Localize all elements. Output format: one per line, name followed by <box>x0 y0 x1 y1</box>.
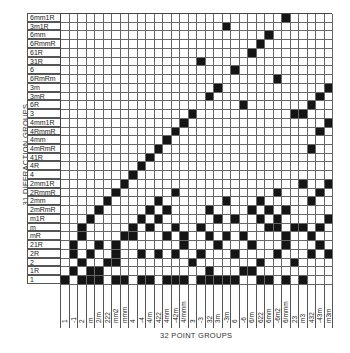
grid-cell <box>138 58 147 67</box>
grid-cell <box>282 145 291 154</box>
grid-cell <box>274 93 283 102</box>
grid-cell <box>129 119 138 128</box>
grid-cell <box>325 58 334 67</box>
grid-cell <box>146 241 155 250</box>
grid-cell <box>325 136 334 145</box>
grid-cell <box>87 162 96 171</box>
grid-cell <box>299 93 308 102</box>
grid-cell <box>325 259 334 268</box>
grid-cell <box>129 101 138 110</box>
grid-cell <box>316 224 325 233</box>
row-label: 3m <box>27 83 60 92</box>
column-label-text: 4/m <box>146 312 153 323</box>
grid-cell <box>325 93 334 102</box>
grid-cell <box>231 75 240 84</box>
grid-cell <box>172 101 181 110</box>
row-label: 6RmRm <box>27 74 60 83</box>
column-label: -4 <box>138 284 147 328</box>
grid-cell <box>87 84 96 93</box>
grid-cell <box>316 241 325 250</box>
grid-cell <box>308 58 317 67</box>
grid-cell <box>78 171 87 180</box>
column-label-text: 4mm <box>163 309 170 323</box>
grid-cell <box>172 145 181 154</box>
grid-cell <box>214 40 223 49</box>
grid-cell <box>308 154 317 163</box>
grid-cell <box>299 171 308 180</box>
grid-cell <box>70 180 79 189</box>
grid-cell <box>291 101 300 110</box>
grid-cell <box>129 215 138 224</box>
grid-cell <box>291 180 300 189</box>
grid-cell <box>78 49 87 58</box>
grid-cell <box>70 93 79 102</box>
grid-cell <box>163 23 172 32</box>
grid-cell <box>214 75 223 84</box>
grid-cell <box>146 110 155 119</box>
grid-cell <box>240 197 249 206</box>
grid-cell <box>214 66 223 75</box>
grid-cell <box>308 31 317 40</box>
row-label: 1R <box>27 266 60 275</box>
grid-cell <box>265 162 274 171</box>
grid-cell <box>112 267 121 276</box>
grid-cell <box>121 110 130 119</box>
grid-cell <box>316 84 325 93</box>
grid-cell <box>240 40 249 49</box>
grid-cell <box>61 224 70 233</box>
grid-cell <box>70 58 79 67</box>
grid-cell <box>138 49 147 58</box>
grid-cell <box>257 66 266 75</box>
grid-cell <box>104 215 113 224</box>
row-label: 4 <box>27 170 60 179</box>
row-label: 2RmmR <box>27 188 60 197</box>
column-label: 3 <box>189 284 198 328</box>
grid-cell <box>172 31 181 40</box>
grid-cell <box>146 75 155 84</box>
grid-cell <box>112 119 121 128</box>
grid-cell <box>214 171 223 180</box>
grid-cell <box>308 66 317 75</box>
grid-cell <box>257 110 266 119</box>
grid-cell <box>138 267 147 276</box>
row-label: 3m1R <box>27 22 60 31</box>
grid-cell <box>299 241 308 250</box>
grid-cell <box>146 84 155 93</box>
grid-cell <box>163 49 172 58</box>
grid-cell <box>78 267 87 276</box>
grid-cell <box>248 66 257 75</box>
grid-cell <box>61 250 70 259</box>
grid-cell <box>282 215 291 224</box>
grid-cell <box>308 206 317 215</box>
grid-cell <box>70 75 79 84</box>
grid-cell <box>129 197 138 206</box>
grid-cell <box>265 215 274 224</box>
grid-cell <box>78 75 87 84</box>
grid-cell <box>95 49 104 58</box>
grid-cell <box>87 136 96 145</box>
grid-cell <box>206 40 215 49</box>
grid-cell <box>316 101 325 110</box>
grid-cell <box>308 14 317 23</box>
grid-cell <box>274 84 283 93</box>
grid-cell <box>172 250 181 259</box>
grid-cell <box>112 259 121 268</box>
grid-cell <box>274 23 283 32</box>
grid-cell <box>325 189 334 198</box>
grid-cell <box>316 232 325 241</box>
grid-cell <box>129 40 138 49</box>
column-label: 2/m <box>95 284 104 328</box>
grid-cell <box>282 119 291 128</box>
grid-cell <box>138 23 147 32</box>
grid-cell <box>172 232 181 241</box>
grid-cell <box>291 224 300 233</box>
grid-cell <box>231 232 240 241</box>
grid-cell <box>282 93 291 102</box>
grid-cell <box>291 241 300 250</box>
grid-cell <box>78 241 87 250</box>
grid-cell <box>87 66 96 75</box>
grid-cell <box>121 101 130 110</box>
grid-cell <box>299 154 308 163</box>
grid-cell <box>78 250 87 259</box>
grid-cell <box>87 154 96 163</box>
